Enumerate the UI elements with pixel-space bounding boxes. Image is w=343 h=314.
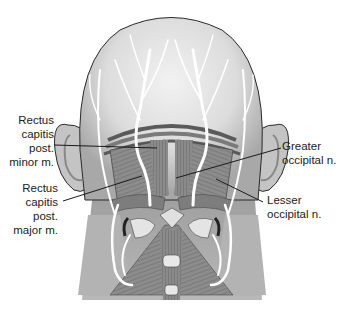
label-rectus-capitis-post-minor: Rectus capitis post. minor m. xyxy=(4,113,54,169)
label-line: post. xyxy=(4,209,58,223)
label-line: Rectus xyxy=(4,113,54,127)
label-line: occipital n. xyxy=(282,153,343,167)
label-greater-occipital-n: Greater occipital n. xyxy=(282,139,343,167)
label-line: Greater xyxy=(282,139,343,153)
label-line: occipital n. xyxy=(267,207,337,221)
scalp xyxy=(80,18,263,201)
label-rectus-capitis-post-major: Rectus capitis post. major m. xyxy=(4,181,58,237)
label-line: capitis xyxy=(4,195,58,209)
label-line: Lesser xyxy=(267,193,337,207)
label-line: Rectus xyxy=(4,181,58,195)
label-line: major m. xyxy=(4,223,58,237)
label-line: capitis xyxy=(4,127,54,141)
label-line: minor m. xyxy=(4,155,54,169)
label-line: post. xyxy=(4,141,54,155)
label-lesser-occipital-n: Lesser occipital n. xyxy=(267,193,337,221)
